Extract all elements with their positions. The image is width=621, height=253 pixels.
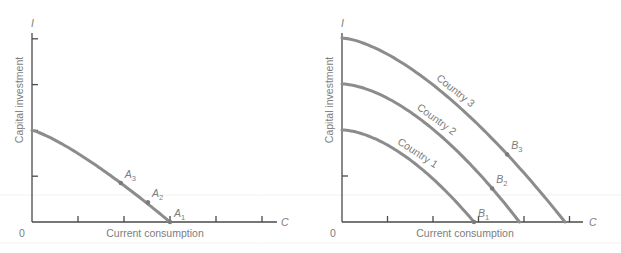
x-axis-label: Current consumption (416, 227, 514, 239)
point-marker (119, 181, 123, 185)
point-marker (490, 186, 494, 190)
chart-left-ppf: A3A2A1 I C 0 Current consumption Capital… (13, 17, 289, 239)
figure-canvas: A3A2A1 I C 0 Current consumption Capital… (0, 0, 621, 253)
y-axis-symbol: I (341, 17, 344, 29)
point-label: A1 (173, 207, 185, 222)
point-label: A2 (151, 187, 163, 202)
y-axis-label: Capital investment (13, 57, 25, 143)
axes (342, 33, 583, 222)
point-marker (505, 152, 509, 156)
point-marker (472, 220, 476, 224)
x-axis-label: Current consumption (106, 227, 204, 239)
curves: Country 1Country 2Country 3 (342, 38, 565, 222)
point-label: B2 (496, 173, 507, 188)
points: A3A2A1 (119, 168, 186, 224)
origin-label: 0 (19, 227, 25, 239)
y-axis-label: Capital investment (323, 57, 335, 143)
ppf-curve-ppf (32, 130, 170, 222)
origin-label: 0 (330, 227, 336, 239)
x-axis-symbol: C (589, 216, 597, 228)
point-marker (146, 200, 150, 204)
points: B1B2B3 (472, 139, 523, 224)
curves (32, 130, 170, 222)
point-label: B1 (478, 207, 489, 222)
point-marker (168, 220, 172, 224)
point-label: B3 (511, 139, 522, 154)
chart-right-countries: Country 1Country 2Country 3 B1B2B3 I C 0… (323, 17, 597, 239)
point-label: A3 (124, 168, 136, 183)
x-axis-symbol: C (281, 216, 289, 228)
y-axis-symbol: I (31, 17, 34, 29)
